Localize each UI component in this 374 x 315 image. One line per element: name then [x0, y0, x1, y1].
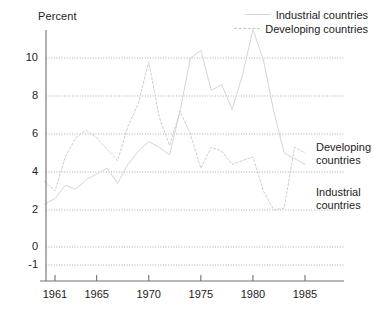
y-tick-label-4: 4: [10, 166, 38, 177]
series-line-industrial-countries: [45, 30, 305, 205]
x-tick-label-1980: 1980: [231, 289, 275, 300]
percent-growth-chart: Percent Industrial countries Developing …: [0, 0, 374, 315]
x-tick-label-1970: 1970: [127, 289, 171, 300]
plot-area: [0, 0, 374, 315]
y-tick-label-2: 2: [10, 204, 38, 215]
y-tick-label-8: 8: [10, 90, 38, 101]
y-tick-label-0: 0: [10, 241, 38, 252]
y-tick-label--1: -1: [10, 259, 38, 270]
y-tick-label-6: 6: [10, 128, 38, 139]
x-tick-label-1965: 1965: [75, 289, 119, 300]
x-tick-label-1985: 1985: [283, 289, 327, 300]
data-series-layer: [45, 30, 305, 211]
x-tick-marks: [55, 275, 305, 281]
series-line-developing-countries: [45, 62, 305, 210]
axes-layer: [40, 30, 344, 281]
x-tick-label-1975: 1975: [179, 289, 223, 300]
x-tick-label-1961: 1961: [33, 289, 77, 300]
y-tick-label-10: 10: [10, 52, 38, 63]
